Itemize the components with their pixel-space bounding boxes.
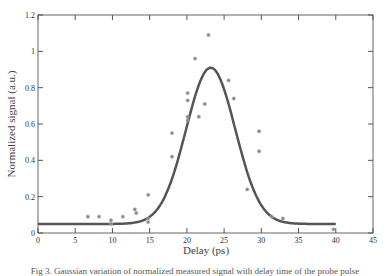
data-point [203,102,206,105]
x-tick-label: 45 [369,236,377,245]
y-tick-label: 1.2 [25,11,35,20]
y-tick-label: 0.8 [25,84,35,93]
data-point [146,193,149,196]
x-tick-label: 35 [295,236,303,245]
data-point [146,220,149,223]
data-point [97,215,100,218]
x-axis-title: Delay (ps) [183,244,229,257]
data-point [257,130,260,133]
data-point [170,155,173,158]
data-point [121,215,124,218]
data-point [232,97,235,100]
data-point [186,99,189,102]
x-tick-label: 40 [332,236,340,245]
data-point [186,91,189,94]
data-point [135,211,138,214]
data-point [109,219,112,222]
x-tick-label: 30 [257,236,265,245]
y-tick-label: 0.4 [25,156,35,165]
data-point [186,119,189,122]
data-points [86,33,335,231]
fit-line-group [38,68,336,224]
x-tick-label: 0 [36,236,40,245]
data-point [332,228,335,231]
data-point [170,131,173,134]
data-point [146,217,149,220]
chart: 051015202530354045 00.20.40.60.811.2 Del… [0,0,390,262]
y-tick-label: 0.2 [25,193,35,202]
data-point [257,150,260,153]
data-point [245,188,248,191]
data-point [270,215,273,218]
gaussian-fit-line [38,68,336,224]
x-tick-label: 10 [108,236,116,245]
x-tick-label: 15 [146,236,154,245]
data-point [197,115,200,118]
data-point [109,222,112,225]
data-point [193,57,196,60]
y-tick-label: 0 [31,229,35,238]
plot-frame [38,15,373,233]
figure-caption: Fig 3. Gaussian variation of normalized … [0,266,390,276]
data-point [227,79,230,82]
y-tick-label: 1 [31,47,35,56]
data-point [86,215,89,218]
y-axis-ticks: 00.20.40.60.811.2 [25,11,373,238]
data-point [133,208,136,211]
x-tick-label: 5 [73,236,77,245]
y-tick-label: 0.6 [25,120,35,129]
data-point [281,217,284,220]
data-point [207,33,210,36]
data-point [186,115,189,118]
plot-border [38,15,373,233]
y-axis-title: Normalized signal (a.u.) [5,70,18,177]
x-axis-ticks: 051015202530354045 [36,15,377,245]
